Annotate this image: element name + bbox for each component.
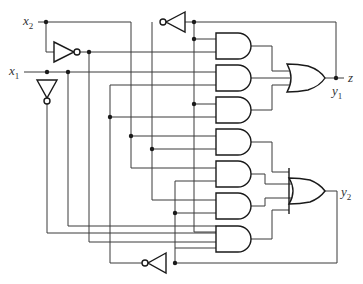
or-gate-y1 xyxy=(287,64,325,92)
inverter-x1 xyxy=(37,80,57,104)
output-label-z: z xyxy=(348,71,353,84)
logic-circuit-diagram: x2 x1 z y1 y2 xyxy=(0,0,363,284)
junction-dots xyxy=(44,20,338,265)
circuit-svg xyxy=(0,0,363,284)
inverter-y1-feedback xyxy=(160,12,185,32)
inverter-y2-feedback xyxy=(142,253,166,273)
wires xyxy=(24,22,344,263)
input-label-x1: x1 xyxy=(9,64,19,81)
output-label-y1: y1 xyxy=(332,84,342,101)
input-label-x2: x2 xyxy=(23,14,33,31)
and-gates xyxy=(216,33,251,252)
or-gate-y2 xyxy=(289,168,325,214)
output-label-y2: y2 xyxy=(341,185,351,202)
inverter-x2 xyxy=(54,42,80,62)
